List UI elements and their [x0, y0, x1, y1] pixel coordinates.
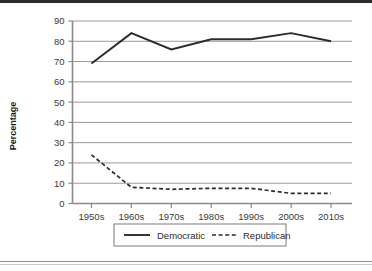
y-tick-label: 40 — [54, 117, 65, 128]
x-tick-label: 2000s — [278, 211, 304, 222]
y-tick-label: 0 — [59, 198, 64, 209]
chart-figure: 0102030405060708090 1950s1960s1970s1980s… — [0, 0, 372, 271]
y-axis-label: Percentage — [8, 102, 18, 151]
chart-legend: Democratic Republican — [114, 224, 291, 246]
series-line-republican — [91, 155, 331, 194]
y-tick-label: 10 — [54, 178, 65, 189]
gridlines — [73, 21, 353, 204]
legend-label-republican: Republican — [243, 230, 291, 241]
y-tick-label: 20 — [54, 157, 65, 168]
y-tick-label: 50 — [54, 97, 65, 108]
plot-container: 0102030405060708090 1950s1960s1970s1980s… — [0, 8, 372, 258]
y-tick-label: 70 — [54, 56, 65, 67]
line-chart: 0102030405060708090 1950s1960s1970s1980s… — [0, 8, 372, 258]
x-tick-label: 1960s — [118, 211, 144, 222]
bottom-divider-rule — [0, 261, 372, 262]
legend-label-democratic: Democratic — [157, 230, 205, 241]
x-tick-label: 1990s — [238, 211, 264, 222]
y-tick-label: 90 — [54, 15, 65, 26]
y-tick-label: 80 — [54, 36, 65, 47]
y-axis-tick-labels: 0102030405060708090 — [54, 15, 65, 209]
bottom-divider-rule-secondary — [0, 264, 372, 265]
y-tick-label: 60 — [54, 76, 65, 87]
x-tick-label: 2010s — [318, 211, 344, 222]
top-divider-rule — [0, 0, 372, 3]
series-line-democratic — [91, 33, 331, 63]
y-tick-label: 30 — [54, 137, 65, 148]
x-tick-label: 1970s — [158, 211, 184, 222]
x-tick-label: 1950s — [79, 211, 105, 222]
x-tick-label: 1980s — [198, 211, 224, 222]
x-axis-tick-labels: 1950s1960s1970s1980s1990s2000s2010s — [79, 211, 345, 222]
